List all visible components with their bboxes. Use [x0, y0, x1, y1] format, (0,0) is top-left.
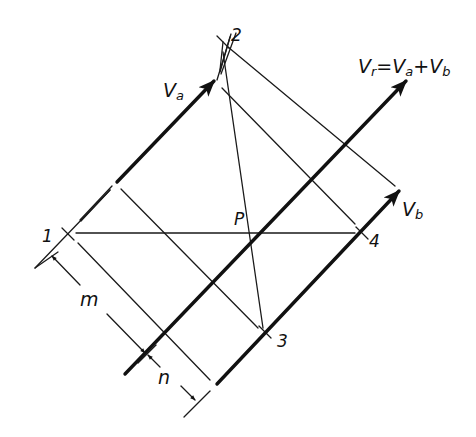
- vector-diagram: 1 2 3 4 P Va Vb Vr=Va+Vb m n: [0, 0, 476, 437]
- dim-n-arrow-bottom: [181, 386, 195, 400]
- diagram-svg: 1 2 3 4 P Va Vb Vr=Va+Vb m n: [0, 0, 476, 437]
- vector-vb: [217, 191, 399, 384]
- line-1-to-2-lower: [80, 186, 112, 220]
- label-point-3: 3: [277, 331, 288, 351]
- perp-line-from-1: [78, 243, 210, 380]
- dim-extension-bottom: [184, 391, 210, 417]
- label-vr-equation: Vr=Va+Vb: [358, 55, 450, 79]
- label-vb: Vb: [402, 198, 423, 222]
- label-point-2: 2: [231, 25, 242, 45]
- label-dim-n: n: [158, 366, 170, 388]
- dim-m-arrow-top: [52, 256, 80, 285]
- label-point-1: 1: [42, 226, 53, 246]
- label-va: Va: [163, 79, 184, 103]
- boundary-line-1-mid: [81, 190, 110, 221]
- dim-extension-top: [35, 252, 58, 268]
- label-dim-m: m: [80, 288, 99, 310]
- label-point-4: 4: [369, 231, 380, 251]
- line-2-to-3: [223, 52, 263, 328]
- dim-m-arrow-bottom: [107, 314, 145, 353]
- label-point-p: P: [234, 209, 245, 229]
